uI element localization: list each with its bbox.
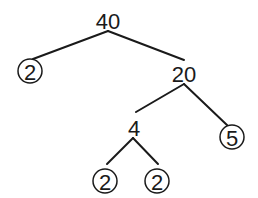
node-label: 20	[172, 62, 196, 87]
node-20: 20	[172, 62, 196, 87]
node-4: 4	[128, 116, 140, 141]
tree-nodes: 40 2 20 4 5 2 2	[18, 9, 244, 195]
node-label: 40	[96, 9, 120, 34]
tree-edges	[33, 31, 228, 164]
node-label: 2	[151, 170, 163, 195]
edge-4-to-2-right	[133, 138, 158, 164]
node-2-prime-right: 2	[145, 169, 169, 195]
edge-20-to-5	[184, 84, 228, 126]
node-label: 4	[128, 116, 140, 141]
node-2-prime: 2	[18, 59, 42, 85]
node-label: 5	[226, 126, 238, 151]
edge-20-to-4	[136, 84, 184, 112]
edge-40-to-20	[108, 31, 184, 60]
node-5-prime: 5	[220, 125, 244, 151]
node-label: 2	[99, 170, 111, 195]
node-label: 2	[24, 60, 36, 85]
edge-40-to-2	[33, 31, 108, 59]
edge-4-to-2-left	[107, 138, 133, 164]
node-40: 40	[96, 9, 120, 34]
factor-tree-diagram: 40 2 20 4 5 2 2	[0, 0, 258, 198]
node-2-prime-left: 2	[93, 169, 117, 195]
